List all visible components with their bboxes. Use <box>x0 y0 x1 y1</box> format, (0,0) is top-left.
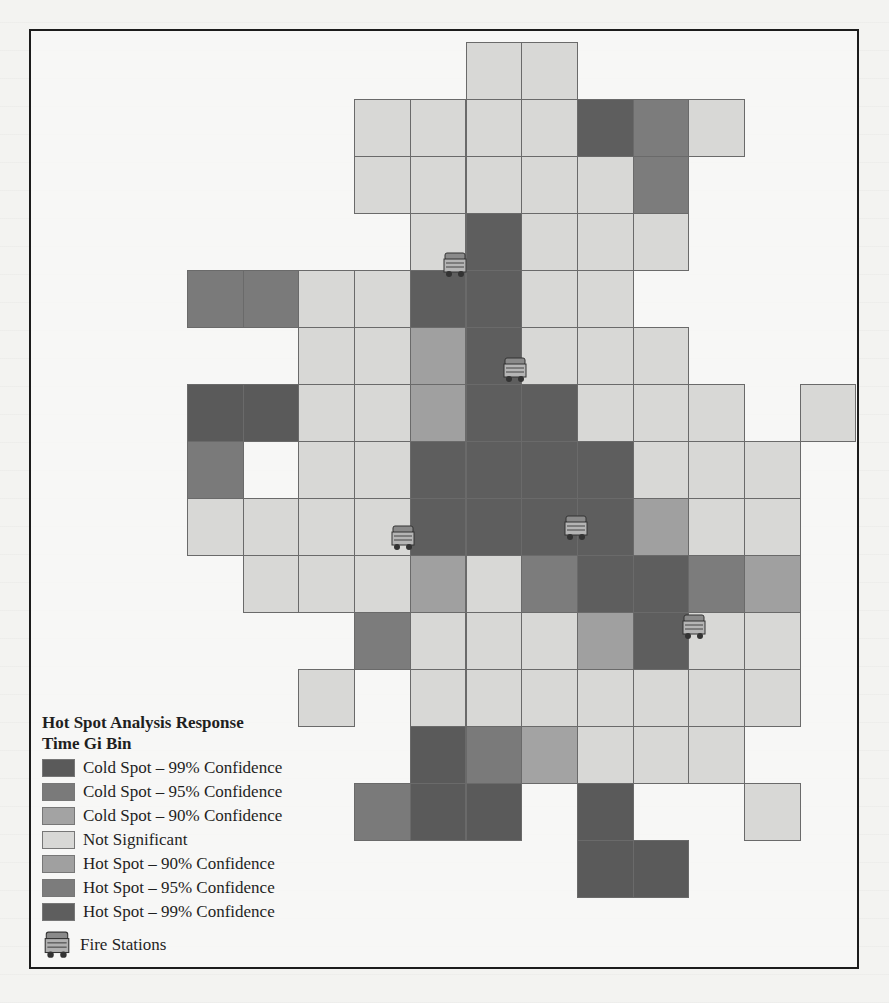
legend-label: Fire Stations <box>80 935 166 955</box>
legend-label: Cold Spot – 99% Confidence <box>83 758 282 778</box>
legend-items: Cold Spot – 99% Confidence Cold Spot – 9… <box>42 756 302 924</box>
fire-station-icon[interactable] <box>442 251 468 279</box>
legend-item-hot-90: Hot Spot – 90% Confidence <box>42 852 302 876</box>
legend-label: Hot Spot – 95% Confidence <box>83 878 275 898</box>
legend-title: Hot Spot Analysis Response Time Gi Bin <box>42 712 302 754</box>
fire-station-icon[interactable] <box>563 514 589 542</box>
legend-title-line1: Hot Spot Analysis Response <box>42 712 302 733</box>
swatch-cold-95 <box>42 783 75 801</box>
swatch-hot-90 <box>42 855 75 873</box>
legend-title-line2: Time Gi Bin <box>42 733 302 754</box>
swatch-hot-95 <box>42 879 75 897</box>
fire-station-icon[interactable] <box>502 356 528 384</box>
legend-label: Hot Spot – 90% Confidence <box>83 854 275 874</box>
legend-item-hot-99: Hot Spot – 99% Confidence <box>42 900 302 924</box>
map-legend: Hot Spot Analysis Response Time Gi Bin C… <box>42 712 302 960</box>
legend-item-fire-stations: Fire Stations <box>42 930 302 960</box>
legend-label: Cold Spot – 90% Confidence <box>83 806 282 826</box>
legend-item-cold-90: Cold Spot – 90% Confidence <box>42 804 302 828</box>
swatch-hot-99 <box>42 903 75 921</box>
fire-station-icon[interactable] <box>681 613 707 641</box>
legend-item-cold-99: Cold Spot – 99% Confidence <box>42 756 302 780</box>
swatch-not-significant <box>42 831 75 849</box>
swatch-cold-90 <box>42 807 75 825</box>
legend-item-not-significant: Not Significant <box>42 828 302 852</box>
fire-station-icon[interactable] <box>390 524 416 552</box>
fire-station-icon <box>42 930 72 960</box>
legend-label: Cold Spot – 95% Confidence <box>83 782 282 802</box>
legend-label: Hot Spot – 99% Confidence <box>83 902 275 922</box>
legend-item-hot-95: Hot Spot – 95% Confidence <box>42 876 302 900</box>
legend-label: Not Significant <box>83 830 187 850</box>
legend-item-cold-95: Cold Spot – 95% Confidence <box>42 780 302 804</box>
swatch-cold-99 <box>42 759 75 777</box>
